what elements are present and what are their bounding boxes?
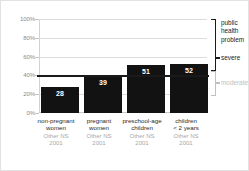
bar-value-label: 28	[41, 90, 79, 97]
category-source: Other NS	[159, 133, 213, 140]
annotation-title-line1: public	[221, 19, 249, 27]
annotation-moderate-label: moderate	[221, 79, 248, 87]
y-tick-label-80: 80%	[9, 35, 35, 41]
y-tick-label-100: 100%	[9, 16, 35, 22]
chart-figure: 100% 80% 60% 40% 20% 0% 28 39 51 52	[0, 0, 249, 171]
y-axis-line	[39, 19, 40, 113]
category-name-line2: < 2 years	[159, 124, 213, 131]
plot-area: 28 39 51 52	[39, 19, 207, 113]
bar-non-pregnant-women: 28	[41, 87, 79, 113]
category-label-children-under-2-years: children < 2 years Other NS 2001	[159, 117, 213, 147]
bar-value-label: 39	[84, 79, 122, 86]
annotation-public-health-problem: public health problem	[221, 19, 249, 44]
moderate-range-bracket	[211, 71, 216, 96]
moderate-tick-mark	[216, 82, 220, 84]
annotation-severe-label: severe	[221, 54, 240, 62]
gridline-100	[39, 19, 207, 20]
severe-tick-mark	[216, 57, 220, 59]
threshold-line-40-percent	[37, 75, 209, 77]
gridline-80	[39, 38, 207, 39]
bar-preschool-age-children: 51	[127, 65, 165, 113]
gridline-60	[39, 57, 207, 58]
bar-children-under-2-years: 52	[170, 64, 208, 113]
y-tick-label-60: 60%	[9, 54, 35, 60]
y-tick-mark-0	[35, 113, 39, 114]
category-name-line1: children	[159, 117, 213, 124]
y-tick-label-20: 20%	[9, 91, 35, 97]
annotation-title-line3: problem	[221, 36, 249, 44]
annotation-title-line2: health	[221, 27, 249, 35]
bar-pregnant-women: 39	[84, 76, 122, 113]
bar-value-label: 51	[127, 68, 165, 75]
bar-value-label: 52	[170, 67, 208, 74]
category-year: 2001	[159, 140, 213, 147]
y-tick-label-0: 0%	[9, 110, 35, 116]
severe-range-bracket	[211, 19, 216, 71]
y-tick-label-40: 40%	[9, 72, 35, 78]
